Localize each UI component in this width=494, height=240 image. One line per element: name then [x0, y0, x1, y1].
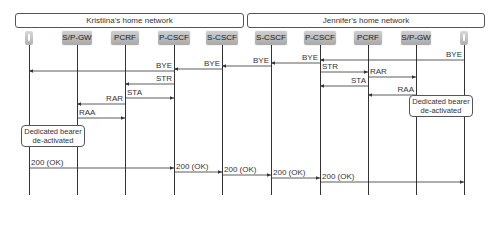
message-label: 200 (OK)	[273, 168, 305, 177]
message-label: STA	[351, 76, 366, 85]
note-dedicated-bearer-jennifer: Dedicated bearer de-activated	[409, 95, 473, 117]
message-label: 200 (OK)	[224, 165, 256, 174]
message-label: BYE	[253, 56, 269, 65]
arrowhead-icon	[412, 75, 416, 79]
arrowhead-icon	[77, 102, 81, 106]
arrowhead-icon	[121, 116, 125, 120]
arrowhead-icon	[267, 173, 271, 177]
arrowhead-icon	[364, 70, 368, 74]
message-label: 200 (OK)	[176, 162, 208, 171]
note-line: Dedicated bearer	[24, 127, 82, 136]
arrowhead-icon	[222, 64, 226, 68]
message-label: RAA	[79, 108, 95, 117]
note-line: de-activated	[412, 106, 470, 115]
note-line: de-activated	[24, 136, 82, 145]
arrowhead-icon	[170, 96, 174, 100]
arrowhead-icon	[316, 176, 320, 180]
message-label: BYE	[302, 53, 318, 62]
message-label: RAR	[370, 67, 387, 76]
message-label: 200 (OK)	[322, 172, 354, 181]
note-dedicated-bearer-kristiina: Dedicated bearer de-activated	[21, 125, 85, 147]
message-label: RAR	[106, 94, 123, 103]
message-label: 200 (OK)	[31, 158, 63, 167]
message-label: STR	[156, 74, 172, 83]
arrowhead-icon	[218, 170, 222, 174]
arrowhead-icon	[29, 69, 33, 73]
message-label: RAA	[398, 85, 414, 94]
arrowhead-icon	[460, 180, 464, 184]
message-label: STA	[127, 88, 142, 97]
message-label: BYE	[156, 61, 172, 70]
message-label: STR	[322, 62, 338, 71]
arrowhead-icon	[320, 84, 324, 88]
arrowhead-icon	[125, 82, 129, 86]
arrowhead-icon	[174, 67, 178, 71]
note-line: Dedicated bearer	[412, 97, 470, 106]
message-label: BYE	[446, 50, 462, 59]
message-label: BYE	[204, 59, 220, 68]
arrowhead-icon	[271, 61, 275, 65]
arrowhead-icon	[368, 93, 372, 97]
arrowhead-icon	[170, 166, 174, 170]
